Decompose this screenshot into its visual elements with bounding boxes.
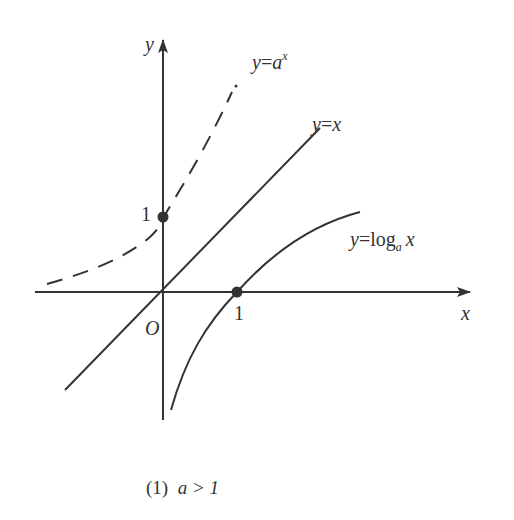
id-rhs: x <box>332 113 341 135</box>
id-eq: = <box>321 113 332 135</box>
y-axis-label: y <box>145 34 154 54</box>
log-base: a <box>396 240 402 254</box>
figure-caption: (1) a > 1 <box>146 478 219 497</box>
caption-condition: a > 1 <box>178 477 219 498</box>
identity-label: y=x <box>312 114 341 134</box>
point-1-0 <box>232 287 243 298</box>
exp-lhs: y <box>252 51 261 73</box>
exp-curve-label: y=ax <box>252 52 288 72</box>
exponential-curve <box>47 92 232 284</box>
exp-curve-end-dot <box>235 85 238 88</box>
log-eq: = <box>359 228 370 250</box>
function-graph <box>0 0 514 520</box>
tick-y-1: 1 <box>141 204 151 224</box>
point-0-1 <box>158 212 169 223</box>
log-fn: log <box>370 228 396 250</box>
id-lhs: y <box>312 113 321 135</box>
tick-x-1: 1 <box>234 303 244 323</box>
log-lhs: y <box>350 228 359 250</box>
exp-base: a <box>272 51 282 73</box>
log-arg: x <box>406 228 415 250</box>
caption-number: (1) <box>146 477 168 498</box>
log-curve-label: y=loga x <box>350 229 415 249</box>
exp-eq: = <box>261 51 272 73</box>
exp-exponent: x <box>282 49 287 63</box>
x-axis-label: x <box>461 303 470 323</box>
origin-label: O <box>145 318 159 338</box>
logarithm-curve <box>171 212 360 410</box>
